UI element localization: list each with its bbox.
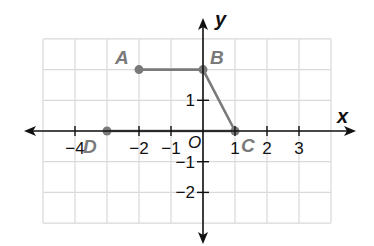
vertex-label-c: C [241,135,255,156]
vertex-label-d: D [83,136,97,157]
y-axis-label: y [214,8,227,30]
x-tick-label: 1 [230,139,239,158]
vertex-label-a: A [114,47,129,68]
x-tick-label: −4 [65,139,84,158]
vertex-point-a [135,65,144,74]
x-tick-label: −2 [129,139,148,158]
x-tick-label: 3 [294,139,303,158]
origin-label: O [188,133,201,152]
coordinate-plane: −4−2−11231−1−2OxyABCD [0,0,374,246]
x-tick-label: 2 [262,139,271,158]
y-tick-label: 1 [186,91,195,110]
y-tick-label: −1 [176,153,195,172]
y-tick-label: −2 [176,183,195,202]
vertex-label-b: B [210,47,224,68]
axes [24,18,356,244]
x-axis-label: x [336,105,349,127]
labels: −4−2−11231−1−2OxyABCD [65,8,349,202]
